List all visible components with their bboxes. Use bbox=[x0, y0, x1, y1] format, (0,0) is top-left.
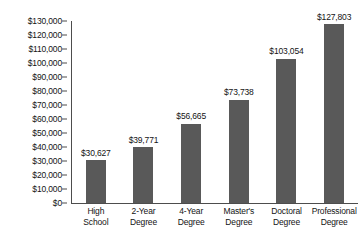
x-axis-category-label: DoctoralDegree bbox=[263, 206, 311, 228]
bar-value-label: $56,665 bbox=[176, 112, 206, 121]
bar-group: $127,803 bbox=[310, 21, 358, 203]
x-axis-category-line: School bbox=[72, 217, 120, 228]
y-axis-tick-mark bbox=[62, 133, 67, 134]
bar[interactable] bbox=[276, 59, 296, 203]
x-axis: HighSchool2-YearDegree4-YearDegreeMaster… bbox=[72, 206, 358, 247]
y-axis-tick-mark bbox=[62, 77, 67, 78]
bar[interactable] bbox=[86, 160, 106, 203]
y-axis-tick-label: $20,000 bbox=[32, 171, 62, 180]
y-axis-tick-mark bbox=[62, 63, 67, 64]
y-axis-tick-label: $50,000 bbox=[32, 129, 62, 138]
y-axis-tick-label: $110,000 bbox=[28, 45, 62, 54]
bar[interactable] bbox=[133, 147, 153, 203]
y-axis: $130,000$120,000$110,000$100,000$90,000$… bbox=[0, 0, 76, 247]
x-axis-category-line: 2-Year bbox=[120, 206, 168, 217]
x-axis-line bbox=[72, 203, 358, 204]
x-axis-category-line: Degree bbox=[310, 217, 358, 228]
x-axis-category-line: Degree bbox=[120, 217, 168, 228]
y-axis-tick-label: $100,000 bbox=[28, 59, 62, 68]
y-axis-tick-label: $90,000 bbox=[32, 73, 62, 82]
x-axis-category-line: 4-Year bbox=[167, 206, 215, 217]
y-axis-tick-label: $120,000 bbox=[28, 31, 62, 40]
bar-value-label: $127,803 bbox=[317, 13, 351, 22]
y-axis-tick-label: $60,000 bbox=[32, 115, 62, 124]
x-axis-category-label: 4-YearDegree bbox=[167, 206, 215, 228]
bar-group: $39,771 bbox=[120, 21, 168, 203]
x-axis-category-label: ProfessionalDegree bbox=[310, 206, 358, 228]
bar-group: $73,738 bbox=[215, 21, 263, 203]
y-axis-tick-label: $30,000 bbox=[32, 157, 62, 166]
y-axis-tick-mark bbox=[62, 189, 67, 190]
x-axis-category-line: High bbox=[72, 206, 120, 217]
x-axis-category-label: HighSchool bbox=[72, 206, 120, 228]
y-axis-tick-mark bbox=[62, 21, 67, 22]
y-axis-tick-mark bbox=[62, 175, 67, 176]
y-axis-tick-label: $40,000 bbox=[32, 143, 62, 152]
bar[interactable] bbox=[229, 100, 249, 203]
x-axis-category-label: 2-YearDegree bbox=[120, 206, 168, 228]
y-axis-tick-mark bbox=[62, 105, 67, 106]
x-axis-category-line: Professional bbox=[310, 206, 358, 217]
y-axis-tick-mark bbox=[62, 203, 67, 204]
x-axis-category-line: Degree bbox=[167, 217, 215, 228]
bar-value-label: $30,627 bbox=[81, 149, 111, 158]
x-axis-category-line: Doctoral bbox=[263, 206, 311, 217]
bar[interactable] bbox=[324, 24, 344, 203]
bar-value-label: $39,771 bbox=[129, 136, 159, 145]
bar-value-label: $73,738 bbox=[224, 88, 254, 97]
bar-value-label: $103,054 bbox=[269, 47, 303, 56]
x-axis-category-line: Degree bbox=[215, 217, 263, 228]
y-axis-tick-mark bbox=[62, 35, 67, 36]
x-axis-category-line: Degree bbox=[263, 217, 311, 228]
bar-group: $56,665 bbox=[167, 21, 215, 203]
y-axis-tick-label: $70,000 bbox=[32, 101, 62, 110]
plot-area: $30,627$39,771$56,665$73,738$103,054$127… bbox=[72, 21, 358, 203]
x-axis-category-line: Master's bbox=[215, 206, 263, 217]
bar-chart: $130,000$120,000$110,000$100,000$90,000$… bbox=[0, 0, 362, 247]
y-axis-tick-mark bbox=[62, 161, 67, 162]
bar[interactable] bbox=[181, 124, 201, 203]
bar-group: $30,627 bbox=[72, 21, 120, 203]
y-axis-tick-mark bbox=[62, 49, 67, 50]
y-axis-tick-mark bbox=[62, 147, 67, 148]
y-axis-tick-label: $10,000 bbox=[32, 185, 62, 194]
y-axis-tick-label: $0 bbox=[53, 199, 62, 208]
bar-group: $103,054 bbox=[263, 21, 311, 203]
y-axis-tick-label: $130,000 bbox=[28, 17, 62, 26]
y-axis-tick-mark bbox=[62, 91, 67, 92]
y-axis-tick-mark bbox=[62, 119, 67, 120]
y-axis-tick-label: $80,000 bbox=[32, 87, 62, 96]
x-axis-category-label: Master'sDegree bbox=[215, 206, 263, 228]
